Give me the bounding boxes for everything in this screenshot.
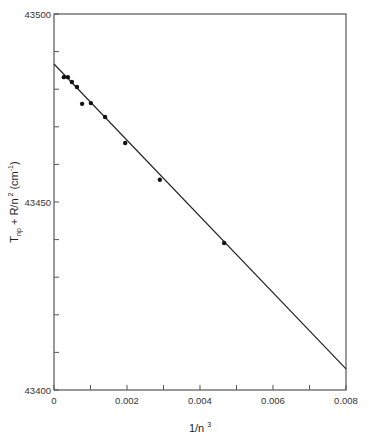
x-tick-label: 0.004 [188, 395, 212, 406]
data-point [70, 80, 74, 84]
y-axis-title: Tnp + R/n2 (cm-1) [7, 161, 23, 242]
x-tick-label: 0 [51, 395, 56, 406]
data-point [103, 115, 107, 119]
y-tick-label: 43450 [25, 197, 51, 208]
data-point [75, 85, 79, 89]
x-tick-label: 0.006 [261, 395, 285, 406]
data-point [222, 241, 226, 245]
data-points [62, 75, 227, 245]
x-axis-tick-labels: 00.0020.0040.0060.008 [51, 395, 358, 406]
y-tick-label: 43400 [25, 385, 51, 396]
data-point [62, 75, 66, 79]
data-point [123, 141, 127, 145]
y-axis-ticks [54, 14, 59, 390]
plot-frame [54, 14, 346, 390]
x-axis-ticks [54, 385, 346, 390]
data-point [66, 75, 70, 79]
y-axis-tick-labels: 434004345043500 [25, 9, 51, 396]
y-tick-label: 43500 [25, 9, 51, 20]
x-axis-title: 1/n3 [189, 421, 211, 434]
x-tick-label: 0.002 [115, 395, 139, 406]
chart: 00.0020.0040.0060.008 434004345043500 1/… [0, 0, 369, 441]
x-tick-label: 0.008 [334, 395, 358, 406]
data-point [80, 102, 84, 106]
data-point [158, 178, 162, 182]
data-point [89, 101, 93, 105]
fit-line [54, 64, 346, 369]
